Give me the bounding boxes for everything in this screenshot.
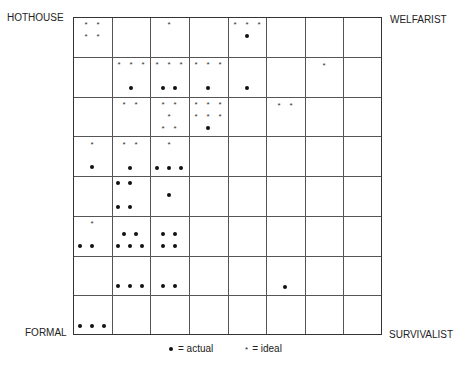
star-icon: *: [245, 345, 248, 354]
ideal-star-icon: *: [206, 113, 209, 121]
actual-dot-icon: [134, 232, 138, 236]
corner-label-formal: FORMAL: [25, 327, 67, 338]
actual-dot-icon: [78, 244, 82, 248]
actual-dot-icon: [140, 284, 144, 288]
legend-actual: = actual: [169, 343, 213, 354]
ideal-star-icon: *: [194, 113, 197, 121]
grid-row-line: [74, 216, 381, 217]
ideal-star-icon: *: [117, 61, 120, 69]
ideal-star-icon: *: [277, 102, 280, 110]
ideal-star-icon: *: [173, 125, 176, 133]
actual-dot-icon: [116, 244, 120, 248]
ideal-star-icon: *: [84, 21, 87, 29]
ideal-star-icon: *: [245, 21, 248, 29]
ideal-star-icon: *: [122, 101, 125, 109]
ideal-star-icon: *: [84, 33, 87, 41]
actual-dot-icon: [206, 86, 210, 90]
grid-row-line: [74, 97, 381, 98]
actual-dot-icon: [173, 86, 177, 90]
actual-dot-icon: [116, 205, 120, 209]
actual-dot-icon: [167, 193, 171, 197]
ideal-star-icon: *: [233, 21, 236, 29]
actual-dot-icon: [90, 324, 94, 328]
actual-dot-icon: [161, 86, 165, 90]
ideal-star-icon: *: [194, 61, 197, 69]
ideal-star-icon: *: [161, 101, 164, 109]
ideal-star-icon: *: [179, 61, 182, 69]
actual-dot-icon: [78, 324, 82, 328]
actual-dot-icon: [179, 166, 183, 170]
ideal-star-icon: *: [218, 113, 221, 121]
ideal-star-icon: *: [173, 101, 176, 109]
legend-ideal: *= ideal: [245, 343, 282, 354]
actual-dot-icon: [155, 166, 159, 170]
ideal-star-icon: *: [289, 102, 292, 110]
legend-actual-label: = actual: [178, 343, 213, 354]
ideal-star-icon: *: [167, 113, 170, 121]
ideal-star-icon: *: [167, 61, 170, 69]
grid-row-line: [74, 57, 381, 58]
ideal-star-icon: *: [122, 141, 125, 149]
ideal-star-icon: *: [90, 141, 93, 149]
actual-dot-icon: [161, 284, 165, 288]
dot-icon: [169, 347, 173, 351]
actual-dot-icon: [116, 284, 120, 288]
actual-dot-icon: [245, 34, 249, 38]
ideal-star-icon: *: [90, 220, 93, 228]
actual-dot-icon: [128, 284, 132, 288]
actual-dot-icon: [167, 166, 171, 170]
actual-dot-icon: [173, 232, 177, 236]
grid-row-line: [74, 136, 381, 137]
ideal-star-icon: *: [322, 62, 325, 70]
ideal-star-icon: *: [206, 101, 209, 109]
ideal-star-icon: *: [134, 141, 137, 149]
ideal-star-icon: *: [141, 61, 144, 69]
ideal-star-icon: *: [155, 61, 158, 69]
legend-ideal-label: = ideal: [252, 343, 282, 354]
actual-dot-icon: [102, 324, 106, 328]
actual-dot-icon: [129, 86, 133, 90]
actual-dot-icon: [173, 284, 177, 288]
ideal-star-icon: *: [129, 61, 132, 69]
actual-dot-icon: [90, 244, 94, 248]
ideal-star-icon: *: [206, 61, 209, 69]
ideal-star-icon: *: [194, 101, 197, 109]
ideal-star-icon: *: [96, 21, 99, 29]
actual-dot-icon: [206, 126, 210, 130]
grid-row-line: [74, 256, 381, 257]
ideal-star-icon: *: [167, 141, 170, 149]
actual-dot-icon: [128, 166, 132, 170]
ideal-star-icon: *: [96, 33, 99, 41]
actual-dot-icon: [116, 181, 120, 185]
corner-label-welfarist: WELFARIST: [390, 14, 447, 25]
actual-dot-icon: [173, 244, 177, 248]
actual-dot-icon: [161, 232, 165, 236]
actual-dot-icon: [161, 244, 165, 248]
ideal-star-icon: *: [161, 125, 164, 133]
actual-dot-icon: [283, 285, 287, 289]
grid-row-line: [74, 176, 381, 177]
actual-dot-icon: [140, 244, 144, 248]
corner-label-hothouse: HOTHOUSE: [7, 12, 64, 23]
ideal-star-icon: *: [167, 21, 170, 29]
grid-row-line: [74, 295, 381, 296]
actual-dot-icon: [122, 232, 126, 236]
ideal-star-icon: *: [134, 101, 137, 109]
ideal-star-icon: *: [218, 61, 221, 69]
corner-label-survivalist: SURVIVALIST: [389, 329, 453, 340]
actual-dot-icon: [128, 205, 132, 209]
ideal-star-icon: *: [218, 101, 221, 109]
actual-dot-icon: [128, 244, 132, 248]
actual-dot-icon: [245, 86, 249, 90]
actual-dot-icon: [128, 181, 132, 185]
actual-dot-icon: [90, 165, 94, 169]
ideal-star-icon: *: [257, 21, 260, 29]
